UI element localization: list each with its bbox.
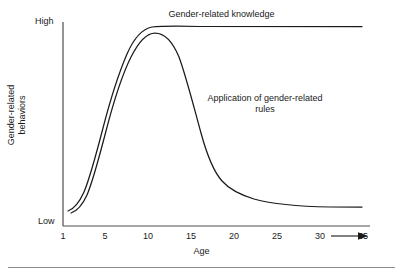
footer-divider bbox=[8, 267, 395, 268]
x-tick-label-5: 5 bbox=[95, 231, 115, 241]
x-tick-label-10: 10 bbox=[138, 231, 158, 241]
annotation-gender-related-knowledge: Gender-related knowledge bbox=[0, 9, 403, 19]
x-tick-label-30: 30 bbox=[310, 231, 330, 241]
x-tick-label-20: 20 bbox=[224, 231, 244, 241]
y-axis-low-label: Low bbox=[38, 216, 55, 226]
series-gender-related-knowledge bbox=[68, 26, 362, 211]
x-axis-title: Age bbox=[0, 246, 403, 256]
y-axis-title: Gender-related behaviors bbox=[6, 50, 28, 180]
x-tick-label-35: 35 bbox=[353, 231, 373, 241]
figure-container: High Low Gender-related behaviors Age 1 … bbox=[0, 0, 403, 279]
x-tick-label-1: 1 bbox=[53, 231, 73, 241]
x-tick-label-15: 15 bbox=[181, 231, 201, 241]
series-application-of-gender-related-rules bbox=[71, 33, 362, 213]
x-tick-label-25: 25 bbox=[267, 231, 287, 241]
annotation-application-of-rules: Application of gender-related rules bbox=[190, 93, 340, 115]
